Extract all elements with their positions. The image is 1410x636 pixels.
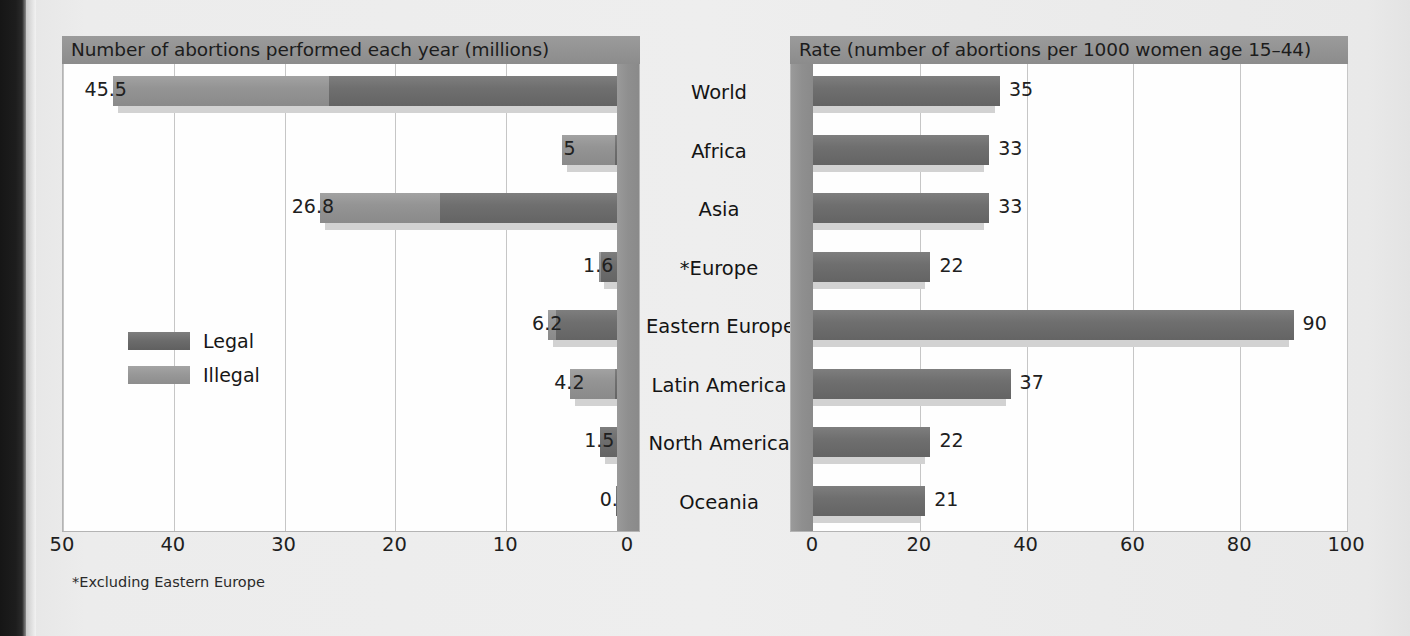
x-tick-60: 60 [1120, 533, 1145, 556]
left-axis-wall [617, 64, 639, 531]
bar-shadow [808, 516, 920, 523]
bar-shadow [325, 223, 622, 230]
right-plot-area: 3533332290372221 [790, 64, 1348, 532]
bar-shadow [808, 165, 984, 172]
bar-row: 33 [791, 123, 1347, 182]
bar-value-label: 21 [934, 484, 958, 514]
bar-shadow [808, 223, 984, 230]
bar-shadow [808, 457, 925, 464]
bar-value-label: 6.2 [532, 308, 562, 338]
bar-fill [813, 135, 989, 165]
bar-value-label: 22 [939, 250, 963, 280]
rate-bar[interactable] [813, 427, 930, 457]
right-axis-wall [791, 64, 813, 531]
rate-bar[interactable] [813, 135, 989, 165]
x-tick-50: 50 [50, 533, 75, 556]
right-bar-rows: 3533332290372221 [791, 64, 1347, 531]
bar-fill [813, 427, 930, 457]
bar-row: 26.8 [63, 181, 639, 240]
bar-shadow [808, 282, 925, 289]
x-tick-20: 20 [382, 533, 407, 556]
rate-bar[interactable] [813, 252, 930, 282]
bar-segment-legal [329, 76, 617, 106]
legend: Legal Illegal [128, 326, 260, 394]
x-tick-0: 0 [806, 533, 818, 556]
bar-row: 5 [63, 123, 639, 182]
category-label-world: World [646, 64, 792, 123]
category-label-africa: Africa [646, 123, 792, 182]
bar-shadow [575, 399, 622, 406]
category-label-latin-america: Latin America [646, 357, 792, 416]
x-tick-80: 80 [1227, 533, 1252, 556]
scan-edge-shadow [0, 0, 26, 636]
bar-row: 45.5 [63, 64, 639, 123]
bar-row: 22 [791, 240, 1347, 299]
bar-row: 35 [791, 64, 1347, 123]
x-tick-40: 40 [1013, 533, 1038, 556]
x-tick-100: 100 [1327, 533, 1364, 556]
category-label-column: WorldAfricaAsia*EuropeEastern EuropeLati… [646, 64, 792, 532]
bar-segment-illegal [113, 76, 329, 106]
rate-bar[interactable] [813, 193, 989, 223]
bar-row: 37 [791, 357, 1347, 416]
bar-shadow [808, 399, 1006, 406]
bar-shadow [808, 106, 995, 113]
category-label-asia: Asia [646, 181, 792, 240]
bar-value-label: 33 [998, 133, 1022, 163]
x-tick-20: 20 [906, 533, 931, 556]
x-tick-0: 0 [621, 533, 633, 556]
bar-shadow [808, 340, 1289, 347]
bar-fill [813, 369, 1011, 399]
left-plot-area: 45.5526.81.66.24.21.50.1 [62, 64, 640, 532]
right-x-axis: 020406080100 [790, 533, 1348, 563]
stacked-bar[interactable] [320, 193, 617, 223]
bar-value-label: 35 [1009, 74, 1033, 104]
legend-swatch-illegal [128, 366, 190, 384]
bar-fill [813, 310, 1294, 340]
x-tick-10: 10 [493, 533, 518, 556]
bar-value-label: 90 [1303, 308, 1327, 338]
left-chart-title: Number of abortions performed each year … [62, 36, 640, 64]
legend-swatch-legal [128, 332, 190, 350]
rate-bar[interactable] [813, 486, 925, 516]
rate-bar[interactable] [813, 369, 1011, 399]
stacked-bar[interactable] [113, 76, 617, 106]
bar-value-label: 1.5 [584, 425, 614, 455]
bar-fill [813, 252, 930, 282]
rate-bar[interactable] [813, 76, 1000, 106]
bar-row: 21 [791, 474, 1347, 533]
bar-row: 1.5 [63, 415, 639, 474]
bar-fill [813, 193, 989, 223]
bar-value-label: 5 [564, 133, 576, 163]
bar-fill [813, 486, 925, 516]
bar-row: 90 [791, 298, 1347, 357]
bar-value-label: 4.2 [554, 367, 584, 397]
x-tick-40: 40 [160, 533, 185, 556]
right-chart-title: Rate (number of abortions per 1000 women… [790, 36, 1348, 64]
bar-value-label: 22 [939, 425, 963, 455]
bar-shadow [553, 340, 622, 347]
category-label-north-america: North America [646, 415, 792, 474]
bar-value-label: 26.8 [292, 191, 334, 221]
category-label-eastern-europe: Eastern Europe [646, 298, 792, 357]
category-label-oceania: Oceania [646, 474, 792, 533]
bar-value-label: 1.6 [583, 250, 613, 280]
legend-label-legal: Legal [203, 330, 254, 352]
left-x-axis: 50403020100 [62, 533, 640, 563]
bar-row: 33 [791, 181, 1347, 240]
bar-segment-legal [440, 193, 617, 223]
left-bar-rows: 45.5526.81.66.24.21.50.1 [63, 64, 639, 531]
legend-item-illegal: Illegal [128, 360, 260, 390]
bar-row: 0.1 [63, 474, 639, 533]
legend-label-illegal: Illegal [203, 364, 260, 386]
bar-row: 22 [791, 415, 1347, 474]
rate-bar[interactable] [813, 310, 1294, 340]
category-label-europe: *Europe [646, 240, 792, 299]
bar-value-label: 37 [1020, 367, 1044, 397]
bar-value-label: 33 [998, 191, 1022, 221]
bar-shadow [567, 165, 622, 172]
right-chart-panel: Rate (number of abortions per 1000 women… [790, 36, 1348, 532]
scan-edge-gradient [26, 0, 36, 636]
x-tick-30: 30 [271, 533, 296, 556]
legend-item-legal: Legal [128, 326, 260, 356]
